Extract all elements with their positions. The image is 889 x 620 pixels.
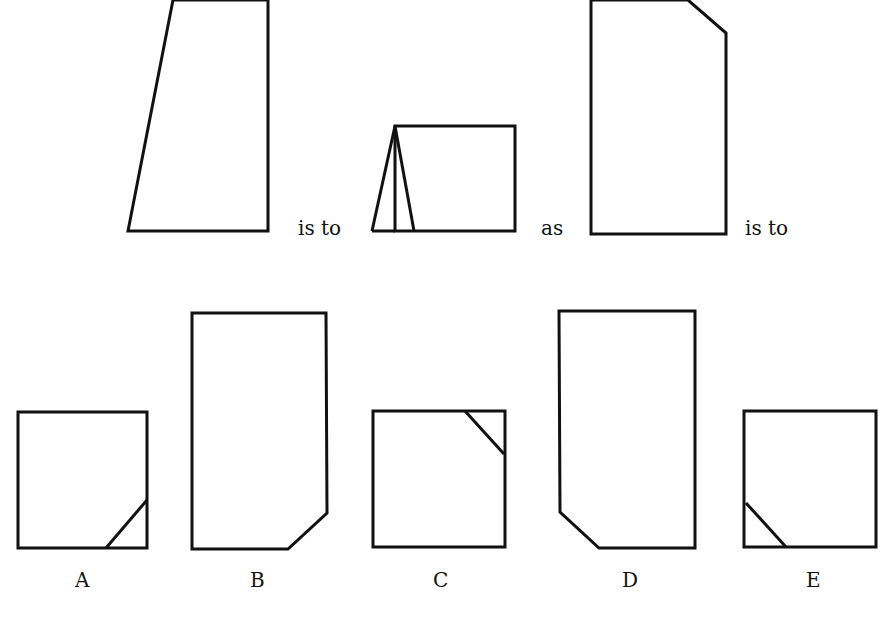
option-d-figure[interactable] bbox=[559, 311, 695, 548]
option-a-square bbox=[18, 412, 147, 548]
option-c-figure[interactable] bbox=[373, 411, 505, 547]
option-a-label[interactable]: A bbox=[75, 570, 89, 590]
option-b-figure[interactable] bbox=[192, 313, 327, 549]
option-b-label[interactable]: B bbox=[250, 570, 265, 590]
connector-as: as bbox=[541, 218, 563, 238]
stem-figure-3-cut-corner-rectangle bbox=[591, 0, 726, 234]
connector-is-to-1: is to bbox=[298, 218, 341, 238]
connector-is-to-2: is to bbox=[745, 218, 788, 238]
stem-figure-2-rectangle-with-triangle bbox=[372, 126, 515, 231]
stem-figure-1-trapezoid bbox=[128, 0, 268, 231]
option-d-label[interactable]: D bbox=[622, 570, 638, 590]
stem-figure-2-triangle-left-edge bbox=[372, 126, 395, 231]
option-e-label[interactable]: E bbox=[806, 570, 821, 590]
option-c-label[interactable]: C bbox=[433, 570, 448, 590]
option-e-figure[interactable] bbox=[744, 411, 876, 547]
option-b-cut-corner-rectangle bbox=[192, 313, 327, 549]
option-a-figure[interactable] bbox=[18, 412, 147, 548]
stem-figure-2-rectangle bbox=[395, 126, 515, 231]
option-e-square bbox=[744, 411, 876, 547]
option-d-cut-corner-rectangle bbox=[559, 311, 695, 548]
analogy-figure-canvas bbox=[0, 0, 889, 620]
